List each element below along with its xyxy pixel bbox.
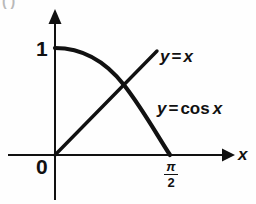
line-label-equals: =: [169, 47, 183, 66]
x-axis-label: x: [238, 146, 247, 163]
cos-label-function: cos: [180, 99, 209, 118]
origin-label-zero: 0: [36, 156, 48, 177]
cosine-equation-label: y=cosx: [157, 100, 222, 117]
line-equation-label: y=x: [160, 48, 193, 65]
y-axis-arrowhead: [49, 9, 62, 24]
cos-label-argument: x: [210, 99, 222, 118]
line-label-expr: x: [183, 47, 192, 66]
x-axis-arrowhead: [222, 149, 235, 162]
fraction-denominator: 2: [158, 175, 184, 189]
y-axis-tick-label-one: 1: [36, 38, 48, 59]
x-axis-tick-label-pi-over-two: π 2: [158, 160, 184, 189]
fraction-numerator: π: [158, 160, 184, 174]
math-figure: ( ) 1 0 x y=x y=cosx π 2: [0, 0, 256, 204]
cos-label-equals: =: [166, 99, 180, 118]
